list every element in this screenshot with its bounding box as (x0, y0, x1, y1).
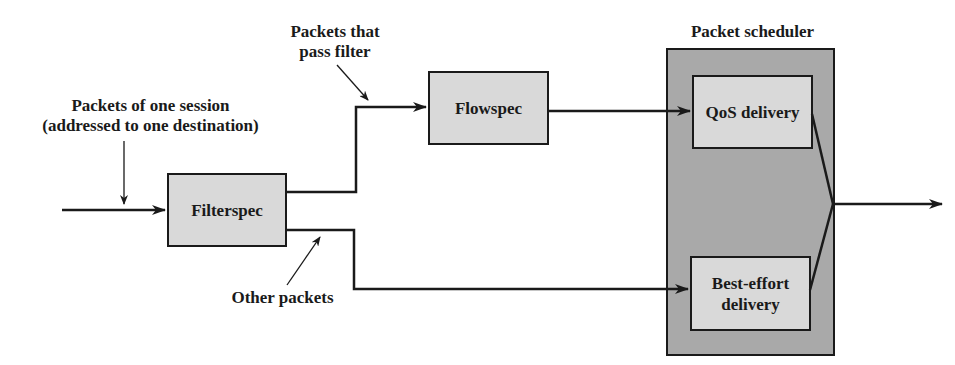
session-label-line1: Packets of one session (18, 96, 283, 116)
pass-pointer-arrow (337, 65, 368, 100)
best-effort-merge-line (810, 204, 833, 290)
session-label-line2: (addressed to one destination) (18, 116, 283, 136)
pass-filter-label-line2: pass filter (270, 42, 400, 62)
other-pointer-arrow (287, 237, 320, 285)
other-path-arrow (287, 230, 688, 289)
other-packets-label: Other packets (220, 288, 345, 308)
connector-lines (0, 0, 955, 365)
pass-filter-label: Packets that pass filter (270, 22, 400, 62)
pass-path-arrow (287, 107, 426, 192)
qos-merge-line (812, 114, 833, 204)
packet-scheduler-title: Packet scheduler (660, 22, 845, 42)
session-label: Packets of one session (addressed to one… (18, 96, 283, 136)
pass-filter-label-line1: Packets that (270, 22, 400, 42)
